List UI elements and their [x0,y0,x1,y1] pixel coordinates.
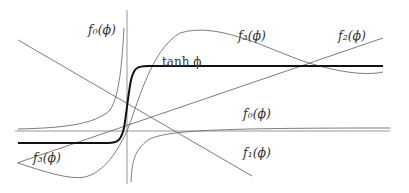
label-f3-top: f₃(ϕ) [238,30,266,43]
label-f0-top: f₀(ϕ) [88,24,116,37]
label-tanh: tanh ϕ [162,56,201,68]
label-f3-bottom: f₃(ϕ) [33,152,61,165]
label-f0-bottom: f₀(ϕ) [243,108,271,121]
curve-f0-left [18,28,124,129]
curve-f3 [18,30,383,178]
label-f2: f₂(ϕ) [338,30,366,43]
label-f1: f₁(ϕ) [243,147,271,160]
